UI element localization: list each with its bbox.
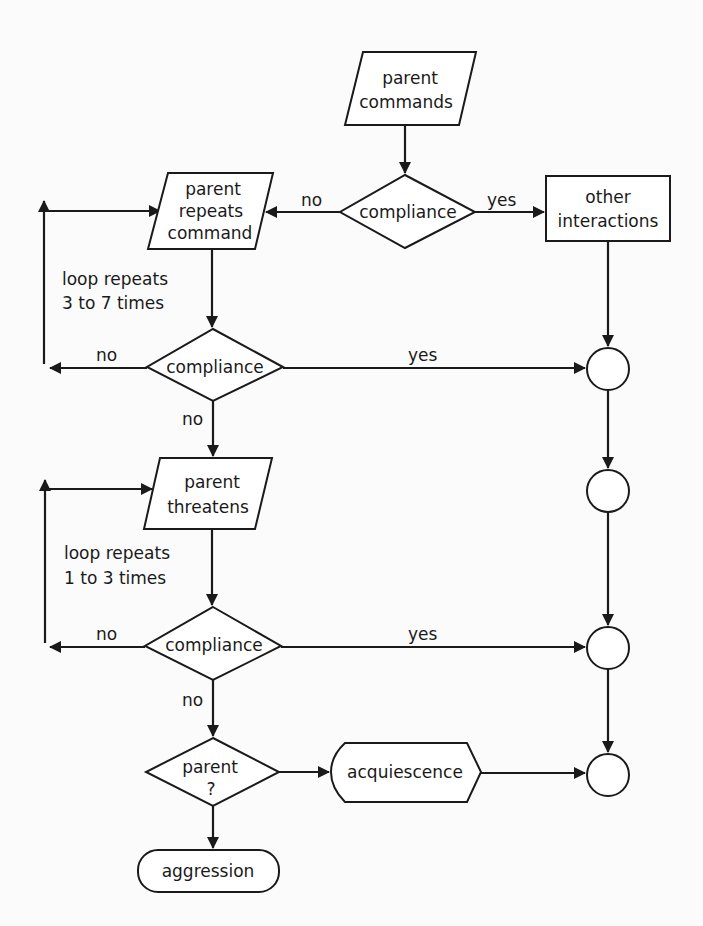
node-compliance-3-label: compliance (165, 635, 263, 655)
edges (44, 125, 608, 848)
node-parent-repeats-line2: repeats (179, 201, 243, 221)
node-acquiescence: acquiescence (331, 743, 481, 802)
node-parent-threatens-line1: parent (184, 472, 240, 492)
annotation-loop2-line2: 1 to 3 times (64, 568, 166, 588)
node-parent-commands-line2: commands (359, 92, 453, 112)
node-parent-repeats-command: parent repeats command (148, 173, 273, 249)
node-parent-decision: parent ? (146, 738, 279, 806)
connector-circle-3 (587, 627, 629, 669)
connector-circle-4 (587, 754, 629, 796)
node-parent-repeats-line3: command (168, 223, 253, 243)
node-compliance-3: compliance (145, 607, 281, 680)
label-compliance1-yes: yes (487, 190, 517, 210)
node-compliance-2-label: compliance (166, 357, 264, 377)
node-other-interactions-line1: other (585, 187, 630, 207)
label-compliance2-no-down: no (182, 409, 203, 429)
node-compliance-1: compliance (340, 175, 475, 248)
annotation-loop1-line2: 3 to 7 times (62, 293, 164, 313)
node-acquiescence-label: acquiescence (347, 762, 463, 782)
node-parent-commands-line1: parent (382, 68, 438, 88)
node-other-interactions: other interactions (546, 176, 670, 241)
node-parent-decision-line2: ? (206, 779, 215, 799)
node-compliance-1-label: compliance (359, 202, 457, 222)
label-compliance3-yes: yes (408, 624, 438, 644)
label-compliance2-yes: yes (408, 345, 438, 365)
label-compliance3-no-down: no (182, 690, 203, 710)
label-compliance2-no-left: no (96, 345, 117, 365)
connector-circle-1 (587, 348, 629, 390)
annotation-loop1-line1: loop repeats (62, 269, 168, 289)
node-aggression-label: aggression (162, 861, 255, 881)
node-parent-threatens-line2: threatens (167, 497, 249, 517)
annotation-loop2-line1: loop repeats (64, 543, 170, 563)
label-compliance1-no: no (301, 190, 322, 210)
node-parent-threatens: parent threatens (144, 458, 272, 529)
node-parent-repeats-line1: parent (185, 179, 241, 199)
flowchart-diagram: parent commands compliance other interac… (0, 0, 703, 926)
node-parent-commands: parent commands (345, 52, 476, 125)
node-other-interactions-line2: interactions (558, 211, 659, 231)
node-compliance-2: compliance (147, 329, 283, 401)
node-aggression: aggression (138, 850, 279, 892)
label-compliance3-no-left: no (96, 624, 117, 644)
connector-circle-2 (587, 470, 629, 512)
node-parent-decision-line1: parent (182, 757, 238, 777)
